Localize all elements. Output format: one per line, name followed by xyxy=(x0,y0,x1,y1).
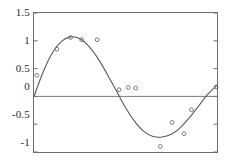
ytick-label-3: 0.5 xyxy=(8,62,30,74)
data-point-marker xyxy=(95,38,99,42)
chart-figure: 1.5 1 0.5 0 -0.5 -1 xyxy=(0,0,230,167)
data-point-marker xyxy=(35,73,39,77)
data-point-markers xyxy=(35,36,218,149)
data-point-marker xyxy=(126,86,130,90)
ytick-label-4: 0 xyxy=(8,80,30,92)
left-axis-ticks xyxy=(34,13,38,152)
data-point-marker xyxy=(182,132,186,136)
data-point-marker xyxy=(158,145,162,149)
plot-frame xyxy=(34,13,218,153)
data-point-marker xyxy=(55,47,59,51)
ytick-label-1: 1.5 xyxy=(8,6,30,18)
data-point-marker xyxy=(117,88,121,92)
right-axis-ticks xyxy=(214,13,218,152)
data-point-marker xyxy=(189,108,193,112)
plot-frame-rect xyxy=(34,13,218,153)
ytick-label-6: -1 xyxy=(4,136,30,148)
ytick-label-5: -0.5 xyxy=(4,108,30,120)
ytick-label-2: 1 xyxy=(8,34,30,46)
fitted-curve-path xyxy=(34,37,217,137)
plot-canvas xyxy=(0,0,230,167)
data-point-marker xyxy=(134,86,138,90)
data-point-marker xyxy=(170,121,174,125)
